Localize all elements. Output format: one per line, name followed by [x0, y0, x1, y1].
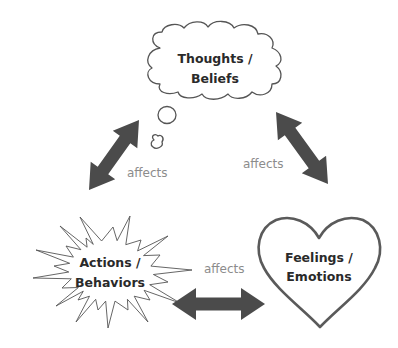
thought-bubble-small	[151, 135, 163, 148]
edge-label-actions-feelings: affects	[204, 262, 245, 276]
feelings-label-line2: Emotions	[286, 269, 351, 284]
feelings-label-line1: Feelings /	[285, 250, 353, 265]
starburst-shape	[33, 216, 192, 328]
thoughts-label-line2: Beliefs	[191, 71, 239, 86]
cbt-triangle-diagram: Thoughts / Beliefs Actions / Behaviors F…	[0, 0, 398, 348]
edge-label-thoughts-feelings: affects	[243, 157, 284, 171]
thoughts-node: Thoughts / Beliefs	[148, 21, 281, 148]
edge-label-thoughts-actions: affects	[127, 166, 168, 180]
actions-node: Actions / Behaviors	[33, 216, 192, 328]
feelings-node: Feelings / Emotions	[259, 218, 380, 327]
double-arrow-thoughts-feelings	[276, 112, 328, 184]
actions-label-line1: Actions /	[79, 255, 141, 270]
double-arrow-actions-feelings	[172, 288, 265, 320]
thoughts-label-line1: Thoughts /	[177, 51, 253, 66]
thought-bubble-large	[158, 107, 176, 124]
actions-label-line2: Behaviors	[75, 275, 145, 290]
